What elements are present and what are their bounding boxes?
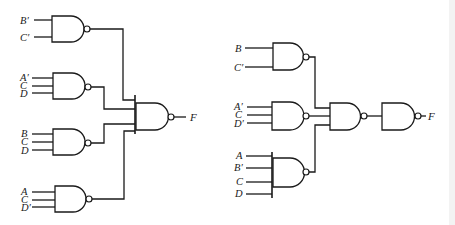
nand-gate-r1: B C′ (234, 43, 309, 73)
nand-gate-r2: A′ C D′ (233, 101, 309, 130)
input-label: B (235, 43, 242, 54)
left-circuit: B′ C′ A′ C D B C D (19, 15, 197, 213)
input-label: C′ (234, 62, 244, 73)
input-label: A (235, 150, 243, 161)
output-label: F (189, 111, 197, 123)
input-label: D′ (20, 202, 32, 213)
output-label: F (427, 110, 435, 122)
nand-gate-r3: A B′ C D (234, 150, 309, 199)
right-circuit: B C′ A′ C D′ A B′ C D (233, 43, 435, 199)
input-label: B′ (234, 162, 243, 173)
input-label: B′ (20, 15, 29, 26)
logic-diagram: B′ C′ A′ C D B C D (0, 0, 455, 225)
nand-gate-l4: A C D′ (20, 186, 92, 213)
input-label: C′ (20, 32, 30, 43)
nand-gate-r4 (330, 103, 382, 130)
nand-gate-l3: B C D (20, 128, 91, 156)
input-label: D (19, 88, 28, 99)
nand-gate-l1: B′ C′ (20, 15, 90, 43)
nand-gate-r5-output: F (382, 103, 435, 130)
nand-gate-l2: A′ C D (19, 72, 91, 99)
page-edge (449, 0, 455, 225)
input-label: D′ (233, 118, 245, 129)
nand-gate-l5-output: F (135, 95, 197, 134)
input-label: D (20, 145, 29, 156)
left-interconnect-wires (90, 29, 135, 199)
right-interconnect-wires (309, 57, 330, 172)
input-label: C (236, 176, 244, 187)
input-label: D (234, 188, 243, 199)
